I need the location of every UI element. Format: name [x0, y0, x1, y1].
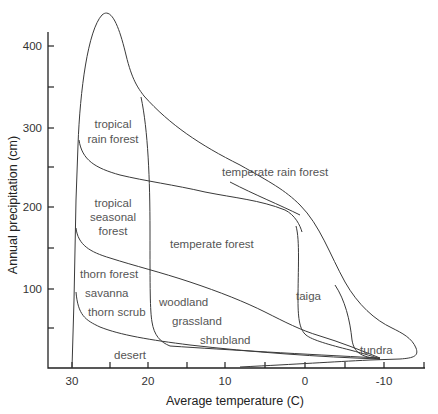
- label-shrubland: shrubland: [200, 334, 251, 346]
- label-savanna: savanna: [85, 287, 129, 299]
- x-tick-0: 0: [302, 375, 308, 387]
- x-tick-neg10: -10: [376, 375, 393, 387]
- label-thorn-forest: thorn forest: [80, 268, 139, 280]
- label-desert: desert: [114, 349, 147, 361]
- x-axis-label: Average temperature (C): [166, 394, 304, 408]
- y-tick-100: 100: [23, 283, 42, 295]
- x-tick-30: 30: [66, 375, 79, 387]
- label-woodland: woodland: [158, 296, 208, 308]
- y-tick-400: 400: [23, 40, 42, 52]
- shrubland-boundary: [170, 346, 380, 358]
- label-thorn-scrub: thorn scrub: [88, 306, 146, 318]
- label-temperate-forest: temperate forest: [170, 238, 255, 250]
- label-tropical-seasonal-2: seasonal: [90, 211, 136, 223]
- x-ticks: [72, 362, 424, 368]
- x-tick-20: 20: [142, 375, 155, 387]
- label-tropical-seasonal-1: tropical: [94, 197, 131, 209]
- label-temperate-rain-forest: temperate rain forest: [222, 166, 329, 178]
- label-tropical-rain-forest-2: rain forest: [87, 133, 139, 145]
- label-tundra: tundra: [360, 344, 393, 356]
- y-axis-label: Annual precipitation (cm): [6, 136, 20, 274]
- biome-diagram: 400 300 200 100 30 20 10 0 -10 Average t…: [0, 0, 438, 414]
- label-taiga: taiga: [296, 290, 322, 302]
- label-tropical-seasonal-3: forest: [99, 225, 129, 237]
- label-tropical-rain-forest-1: tropical: [94, 118, 131, 130]
- biome-labels: tropical rain forest tropical seasonal f…: [80, 118, 393, 361]
- y-ticks: [48, 46, 54, 328]
- y-tick-200: 200: [23, 201, 42, 213]
- label-grassland: grassland: [172, 315, 222, 327]
- x-tick-10: 10: [219, 375, 232, 387]
- y-tick-300: 300: [23, 122, 42, 134]
